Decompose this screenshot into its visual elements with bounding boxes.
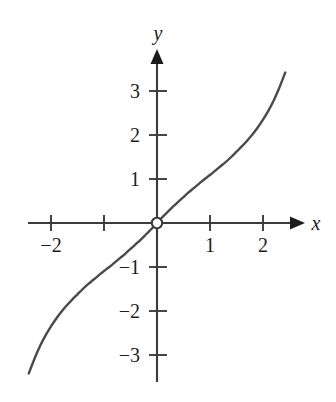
- y-tick-label--1: −1: [119, 256, 140, 278]
- x-tick-label-1: 1: [205, 234, 215, 256]
- x-tick-label-2: 2: [258, 234, 268, 256]
- y-tick-label-3: 3: [130, 80, 140, 102]
- x-tick-label--2: −2: [40, 234, 61, 256]
- x-axis-label: x: [311, 212, 321, 234]
- y-tick-label-2: 2: [130, 124, 140, 146]
- y-tick-label--2: −2: [119, 300, 140, 322]
- y-tick-label--3: −3: [119, 344, 140, 366]
- y-axis-label: y: [152, 22, 163, 45]
- y-tick-label-1: 1: [130, 168, 140, 190]
- y-axis-arrow-icon: [151, 49, 164, 64]
- coordinate-plot: −2 1 2 3 2 1 −1 −2 −3 x y: [0, 0, 336, 402]
- origin-open-point: [152, 218, 162, 228]
- graph-figure: −2 1 2 3 2 1 −1 −2 −3 x y: [0, 0, 336, 402]
- x-axis-arrow-icon: [290, 217, 305, 230]
